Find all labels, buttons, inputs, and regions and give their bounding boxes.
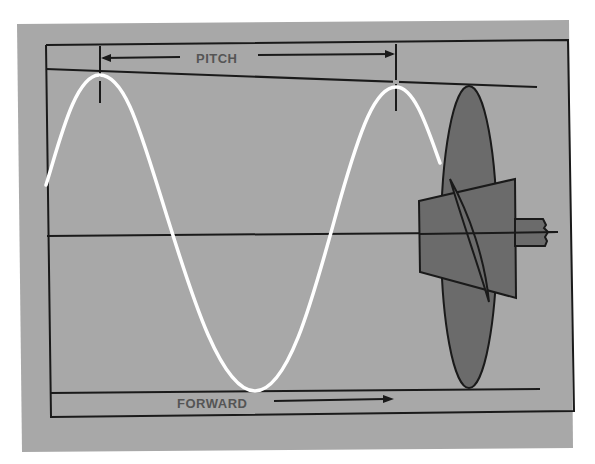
pitch-arrow-right <box>258 54 393 55</box>
pitch-arrow-left <box>103 57 180 58</box>
propeller-pitch-diagram: PITCH FORWARD <box>0 0 595 464</box>
pitch-label: PITCH <box>196 51 238 66</box>
forward-label: FORWARD <box>177 396 247 411</box>
